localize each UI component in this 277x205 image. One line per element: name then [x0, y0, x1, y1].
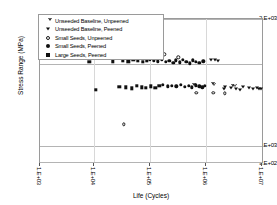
legend-item-2[interactable]: Small Seeds, Unpeened [41, 34, 163, 42]
data-point [135, 84, 138, 87]
data-point [195, 91, 198, 94]
data-point [216, 59, 220, 62]
data-point [154, 86, 157, 89]
legend-item-label: Unseeded Baseline, Unpeened [55, 18, 128, 24]
data-point [222, 87, 226, 90]
data-point [158, 84, 161, 87]
data-point [118, 85, 121, 88]
data-point [257, 87, 261, 90]
data-point [124, 86, 127, 89]
vgridline-1e6 [206, 19, 207, 162]
gridline-1e3 [40, 146, 262, 147]
triangle-down-open-icon [41, 17, 55, 25]
data-point [122, 123, 125, 126]
gridline-9e2 [40, 162, 262, 163]
legend: Unseeded Baseline, Unpeened Unseeded Bas… [38, 14, 164, 60]
data-point [141, 60, 144, 63]
data-point [149, 85, 152, 88]
data-point [177, 56, 180, 59]
data-point [229, 86, 233, 89]
x-tick-mark-3 [205, 163, 206, 166]
x-tick-label-3: 1.E+06 [202, 167, 208, 185]
x-tick-label-1: 1.E+04 [90, 167, 96, 185]
data-point [94, 88, 97, 91]
data-point [241, 86, 245, 89]
x-tick-mark-1 [93, 163, 94, 166]
legend-item-4[interactable]: Large Seeds, Peened [41, 51, 163, 59]
data-point [174, 85, 177, 88]
circle-filled-icon [41, 42, 55, 50]
x-tick-mark-2 [149, 163, 150, 166]
legend-item-1[interactable]: Unseeded Baseline, Peened [41, 25, 163, 33]
x-tick-label-4: 1.E+07 [258, 167, 264, 185]
data-point [170, 84, 173, 87]
data-point [144, 86, 147, 89]
x-axis-label: Life (Cycles) [39, 192, 263, 199]
x-tick-mark-0 [39, 163, 40, 166]
data-point [179, 83, 182, 86]
circle-open-icon [41, 34, 55, 42]
x-tick-label-0: 1.E+03 [36, 167, 42, 185]
data-point [161, 83, 164, 86]
x-tick-mark-4 [261, 163, 262, 166]
legend-item-label: Small Seeds, Unpeened [55, 35, 112, 41]
data-point [127, 60, 130, 63]
data-point [166, 84, 169, 87]
legend-item-0[interactable]: Unseeded Baseline, Unpeened [41, 17, 163, 25]
gridline-upper [40, 64, 262, 65]
triangle-down-filled-icon [41, 25, 55, 33]
legend-item-3[interactable]: Small Seeds, Peened [41, 42, 163, 50]
data-point [130, 87, 133, 90]
chart-figure: Stress Range (MPa) 2.E+03 1.E+03 9.E+02 … [0, 0, 277, 205]
data-point [201, 59, 204, 62]
legend-item-label: Small Seeds, Peened [55, 43, 106, 49]
legend-item-label: Large Seeds, Peened [55, 52, 106, 58]
y-axis-label: Stress Range (MPa) [17, 26, 24, 106]
legend-item-label: Unseeded Baseline, Peened [55, 26, 122, 32]
x-tick-label-2: 1.E+05 [146, 167, 152, 185]
data-point [238, 88, 242, 91]
data-point [88, 60, 91, 63]
data-point [140, 85, 143, 88]
data-point [223, 92, 226, 95]
square-filled-icon [41, 51, 55, 59]
